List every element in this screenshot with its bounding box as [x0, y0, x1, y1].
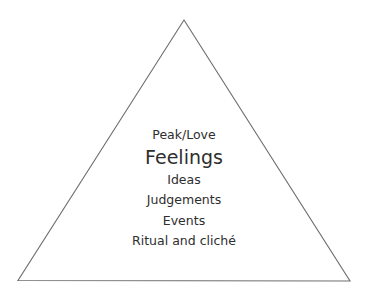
pyramid-diagram: Peak/Love Feelings Ideas Judgements Even… — [0, 0, 368, 298]
level-events: Events — [0, 213, 368, 229]
level-feelings: Feelings — [0, 146, 368, 168]
level-ritual-and-cliche: Ritual and cliché — [0, 233, 368, 249]
level-judgements: Judgements — [0, 192, 368, 208]
level-peak-love: Peak/Love — [0, 127, 368, 143]
level-ideas: Ideas — [0, 172, 368, 188]
